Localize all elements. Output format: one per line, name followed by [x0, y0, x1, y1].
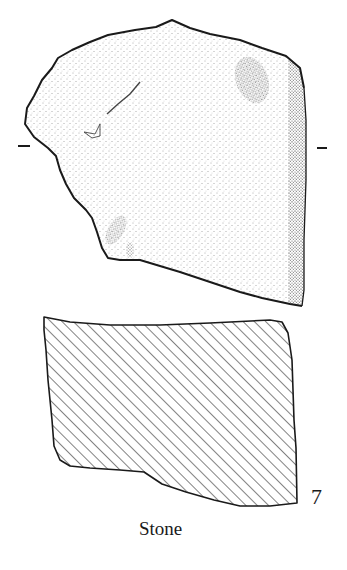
stone-drawing [0, 0, 347, 570]
figure-number: 7 [311, 486, 322, 508]
figure-caption: Stone [0, 519, 347, 538]
stone-figure: 7 Stone [0, 0, 347, 570]
section-view [44, 317, 297, 506]
plan-view [25, 20, 308, 310]
